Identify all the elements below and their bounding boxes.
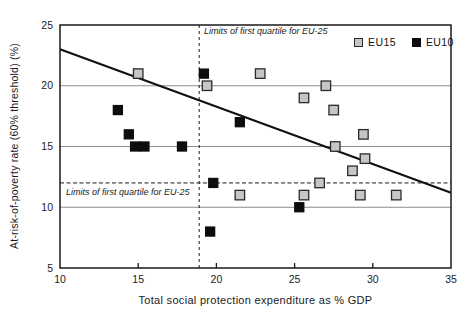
data-point-eu10 (124, 130, 133, 139)
data-point-eu10 (140, 142, 149, 151)
data-point-eu15 (133, 69, 143, 79)
legend-label-eu15: EU15 (368, 36, 396, 48)
data-point-eu15 (331, 142, 341, 152)
data-point-eu15 (255, 69, 265, 79)
x-tick-label: 25 (289, 273, 301, 285)
annotation-first-quartile-vertical: Limits of first quartile for EU-25 (204, 26, 328, 36)
data-point-eu10 (295, 203, 304, 212)
scatter-plot-figure: 101520253035510152025 At-risk-of-poverty… (0, 0, 475, 318)
data-point-eu15 (359, 130, 369, 140)
data-point-eu15 (315, 178, 325, 188)
data-point-eu15 (356, 190, 366, 200)
y-tick-label: 10 (41, 201, 53, 213)
data-point-eu10 (177, 142, 186, 151)
y-tick-label: 5 (47, 262, 53, 274)
data-point-eu10 (206, 227, 215, 236)
data-point-eu15 (392, 190, 402, 200)
y-tick-label: 20 (41, 79, 53, 91)
y-tick-label: 25 (41, 19, 53, 31)
data-point-eu10 (131, 142, 140, 151)
x-tick-label: 15 (132, 273, 144, 285)
legend-label-eu10: EU10 (426, 36, 454, 48)
data-point-eu10 (113, 106, 122, 115)
data-point-eu15 (329, 105, 339, 115)
x-tick-label: 20 (211, 273, 223, 285)
data-point-eu15 (321, 81, 331, 91)
y-tick-label: 15 (41, 140, 53, 152)
data-point-eu15 (299, 93, 309, 103)
legend-item-eu15: EU15 (354, 36, 396, 48)
data-point-eu15 (348, 166, 358, 176)
legend-item-eu10: EU10 (412, 36, 454, 48)
x-tick-label: 30 (367, 273, 379, 285)
x-axis-title: Total social protection expenditure as %… (60, 294, 451, 306)
annotation-first-quartile-horizontal: Limits of first quartile for EU-25 (66, 187, 190, 197)
data-point-eu10 (209, 178, 218, 187)
data-point-eu15 (299, 190, 309, 200)
y-axis-title: At-risk-of-poverty rate (60% threshold) … (8, 36, 20, 256)
data-point-eu15 (235, 190, 245, 200)
data-point-eu10 (235, 118, 244, 127)
data-point-eu15 (360, 154, 370, 164)
eu10-marker-swatch (412, 38, 421, 47)
x-tick-label: 35 (445, 273, 457, 285)
eu15-marker-swatch (354, 38, 363, 47)
x-tick-label: 10 (54, 273, 66, 285)
legend: EU15 EU10 (354, 36, 454, 48)
data-point-eu10 (199, 69, 208, 78)
data-point-eu15 (202, 81, 212, 91)
